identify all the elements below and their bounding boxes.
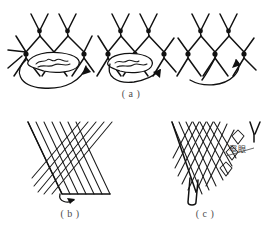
arrowhead — [67, 198, 75, 204]
arrowhead — [82, 66, 91, 75]
mesh-knots — [105, 29, 166, 57]
panel-c — [166, 116, 262, 206]
arrowhead — [232, 59, 241, 68]
needle-loop — [108, 53, 153, 72]
panel-a-step-middle — [92, 6, 180, 90]
mesh-knots — [185, 29, 246, 57]
net-fragment-middle — [92, 6, 180, 90]
caption-c: ( c ) — [145, 208, 262, 219]
panel-a-step-right — [172, 6, 260, 90]
net-sheet-b — [22, 118, 116, 204]
narrow-mesh-label: 窄眼 — [229, 143, 247, 154]
diamond-mesh — [28, 122, 112, 194]
caption-b: ( b ) — [10, 208, 130, 219]
panel-a-step-left — [4, 6, 96, 90]
net-fragment-left — [4, 6, 96, 90]
mesh-strands — [177, 14, 256, 80]
diamond-mesh — [172, 122, 236, 194]
caption-a: ( a ) — [0, 88, 262, 99]
net-sheet-c — [166, 116, 262, 206]
panel-b — [22, 118, 116, 204]
bottom-loop-arrow — [60, 194, 75, 204]
net-mesh-figure: ( a ) — [0, 0, 262, 235]
net-fragment-right — [172, 6, 260, 90]
loose-strand — [250, 122, 260, 142]
